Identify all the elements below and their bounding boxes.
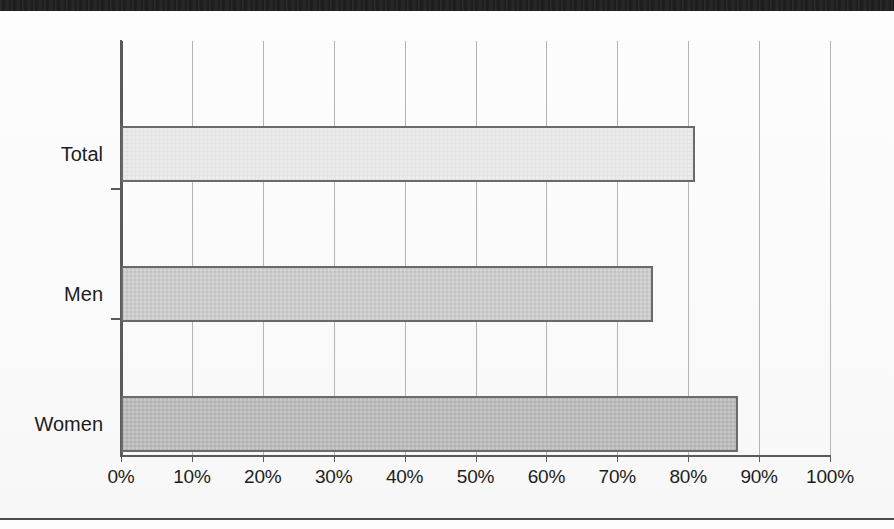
bar-men	[121, 266, 653, 322]
category-label-total: Total	[61, 143, 103, 166]
category-label-men: Men	[64, 283, 103, 306]
category-label-women: Women	[34, 413, 103, 436]
gridline-60	[546, 41, 547, 455]
bar-fill	[123, 268, 651, 320]
x-tick-label: 100%	[795, 466, 865, 488]
gridline-40	[405, 41, 406, 455]
plot-area: 0%10%20%30%40%50%60%70%80%90%100% TotalM…	[121, 41, 830, 455]
x-tick-80	[688, 455, 689, 462]
gridline-30	[334, 41, 335, 455]
x-tick-label: 30%	[299, 466, 369, 488]
scan-top-band-texture	[0, 0, 894, 11]
gridline-50	[476, 41, 477, 455]
gridline-0	[121, 41, 123, 455]
gridline-10	[192, 41, 193, 455]
x-tick-label: 80%	[653, 466, 723, 488]
x-tick-label: 70%	[582, 466, 652, 488]
x-tick-label: 40%	[370, 466, 440, 488]
x-tick-label: 60%	[511, 466, 581, 488]
x-tick-label: 20%	[228, 466, 298, 488]
gridline-80	[688, 41, 689, 455]
bar-fill	[123, 398, 736, 450]
bar-fill	[123, 128, 693, 180]
x-tick-100	[830, 455, 831, 462]
x-tick-30	[334, 455, 335, 462]
x-tick-20	[263, 455, 264, 462]
x-tick-label: 90%	[724, 466, 794, 488]
scan-top-band	[0, 0, 894, 11]
chart-page: 0%10%20%30%40%50%60%70%80%90%100% TotalM…	[0, 0, 894, 529]
x-tick-90	[759, 455, 760, 462]
gridline-100	[830, 41, 831, 455]
gridline-90	[759, 41, 760, 455]
x-tick-label: 50%	[441, 466, 511, 488]
x-tick-40	[405, 455, 406, 462]
footer-rule	[0, 518, 894, 520]
bar-women	[121, 396, 738, 452]
x-tick-label: 10%	[157, 466, 227, 488]
y-tick-separator-0	[111, 188, 122, 190]
x-tick-60	[546, 455, 547, 462]
x-tick-10	[192, 455, 193, 462]
bar-total	[121, 126, 695, 182]
x-tick-label: 0%	[86, 466, 156, 488]
x-tick-70	[617, 455, 618, 462]
gridline-70	[617, 41, 618, 455]
x-tick-50	[476, 455, 477, 462]
x-tick-0	[121, 455, 122, 462]
gridline-20	[263, 41, 264, 455]
